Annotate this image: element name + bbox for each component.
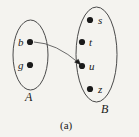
element-label-z: z	[98, 84, 102, 95]
element-dot-b	[27, 39, 33, 45]
element-dot-g	[27, 62, 33, 68]
figure-caption: (a)	[60, 120, 72, 131]
element-dot-s	[87, 17, 93, 23]
set-label-b: B	[101, 103, 108, 115]
arrow-b-to-u	[34, 42, 80, 64]
element-label-b: b	[18, 37, 24, 48]
element-label-s: s	[98, 15, 102, 26]
element-dot-u	[79, 63, 85, 69]
set-a-ellipse	[13, 20, 48, 90]
element-label-t: t	[89, 37, 92, 48]
set-mapping-figure: b g s t u z A B (a)	[0, 0, 139, 137]
element-label-g: g	[18, 60, 24, 71]
element-label-u: u	[89, 61, 95, 72]
element-dot-t	[79, 39, 85, 45]
set-label-a: A	[25, 91, 32, 103]
set-b-ellipse	[76, 7, 117, 102]
element-dot-z	[87, 86, 93, 92]
